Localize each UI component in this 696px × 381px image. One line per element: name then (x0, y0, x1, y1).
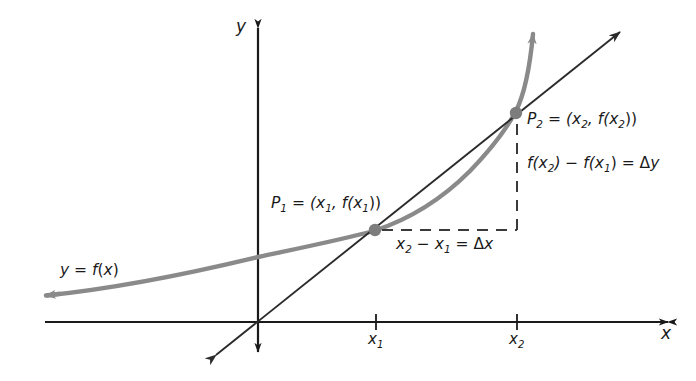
p2-prefix: P (527, 110, 536, 128)
p1-suffix: )) (369, 194, 381, 212)
delta-x-label: x2 − x1 = Δx (396, 237, 493, 255)
calculus-secant-figure: y x x1 x2 y = f(x) P1 = (x1, f(x1)) P2 =… (0, 0, 696, 381)
p2-body: = (x (543, 110, 581, 128)
p2-suffix: )) (625, 110, 637, 128)
tick-label-x1: x1 (368, 332, 383, 350)
delta-x-c: = (451, 235, 474, 253)
p1-prefix: P (271, 194, 280, 212)
x-axis-label: x (661, 325, 671, 342)
point-p2-marker (510, 107, 522, 119)
delta-y-a: f(x (527, 154, 548, 172)
tick-label-x1-sub: 1 (377, 339, 383, 350)
curve-equation-label: y = f(x) (60, 263, 119, 279)
p2-body-sub: 2 (581, 118, 588, 130)
curve-equation-close: ) (113, 261, 119, 279)
p1-body: = (x (287, 194, 325, 212)
tick-label-x2: x2 (509, 332, 524, 350)
delta-y-b: ) − f(x (554, 154, 604, 172)
delta-annotation-lines (382, 118, 517, 230)
figure-canvas (0, 0, 696, 381)
point-p1-marker (369, 224, 381, 236)
curve-equation-y: y (60, 261, 69, 279)
p1-body-sub: 1 (325, 202, 332, 214)
delta-x-var: x (484, 235, 493, 253)
delta-x-a-sub: 2 (405, 243, 412, 255)
curve-equation-x: x (104, 261, 113, 279)
function-curve (46, 34, 533, 296)
point-p1-label: P1 = (x1, f(x1)) (271, 196, 381, 214)
delta-x-b-sub: 1 (444, 243, 451, 255)
tick-label-x2-base: x (509, 330, 518, 348)
p2-mid: , f(x (588, 110, 619, 128)
delta-x-symbol: Δ (473, 235, 484, 253)
point-p2-label: P2 = (x2, f(x2)) (527, 112, 637, 130)
curve-equation-eq: = (69, 261, 92, 279)
delta-y-b-sub: 1 (604, 162, 611, 174)
tick-label-x2-sub: 2 (518, 339, 524, 350)
delta-x-a: x (396, 235, 405, 253)
y-axis-label: y (236, 18, 246, 35)
delta-y-var: y (650, 154, 659, 172)
p1-mid: , f(x (332, 194, 363, 212)
delta-y-symbol: Δ (640, 154, 651, 172)
delta-x-b: − x (412, 235, 444, 253)
delta-y-label: f(x2) − f(x1) = Δy (527, 156, 659, 174)
delta-y-c: ) = (611, 154, 640, 172)
tick-label-x1-base: x (368, 330, 377, 348)
